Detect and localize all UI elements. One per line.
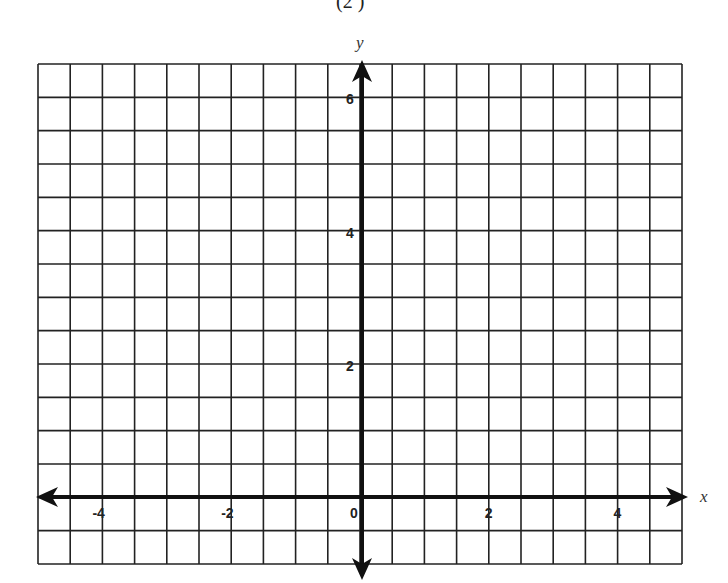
x-tick-label: 0 bbox=[350, 505, 358, 521]
tick-labels: -4-2024246 bbox=[92, 91, 621, 521]
x-tick-label: 4 bbox=[614, 505, 622, 521]
x-tick-label: -2 bbox=[221, 505, 234, 521]
y-axis-label: y bbox=[354, 33, 364, 52]
y-tick-label: 2 bbox=[346, 358, 354, 374]
x-tick-label: -4 bbox=[92, 505, 105, 521]
x-axis-label: x bbox=[699, 487, 708, 506]
coordinate-grid-chart: y x -4-2024246 bbox=[0, 0, 728, 583]
y-tick-label: 6 bbox=[346, 91, 354, 107]
y-tick-label: 4 bbox=[346, 225, 354, 241]
x-tick-label: 2 bbox=[485, 505, 493, 521]
